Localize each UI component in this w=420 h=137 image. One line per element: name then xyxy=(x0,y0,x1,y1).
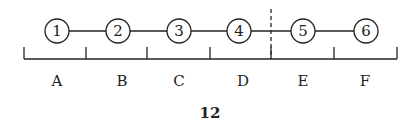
node-3: 3 xyxy=(167,19,191,43)
node-label: 4 xyxy=(234,22,244,40)
node-4: 4 xyxy=(227,19,251,43)
node-2: 2 xyxy=(106,19,130,43)
segment-label-b: B xyxy=(116,72,127,90)
segment-label-e: E xyxy=(298,72,309,90)
segment-label-a: A xyxy=(51,72,63,90)
segment-diagram: 1 2 3 4 5 6 A B C D E F 12 xyxy=(0,0,420,137)
node-label: 2 xyxy=(113,22,123,40)
ticks xyxy=(24,47,397,59)
node-5: 5 xyxy=(291,19,315,43)
node-6: 6 xyxy=(354,19,378,43)
node-1: 1 xyxy=(45,19,69,43)
node-label: 5 xyxy=(298,22,308,40)
node-label: 6 xyxy=(361,22,371,40)
segment-label-c: C xyxy=(173,72,184,90)
page-number: 12 xyxy=(200,104,221,122)
node-label: 1 xyxy=(52,22,62,40)
segment-label-d: D xyxy=(237,72,249,90)
node-label: 3 xyxy=(174,22,184,40)
segment-label-f: F xyxy=(360,72,370,90)
